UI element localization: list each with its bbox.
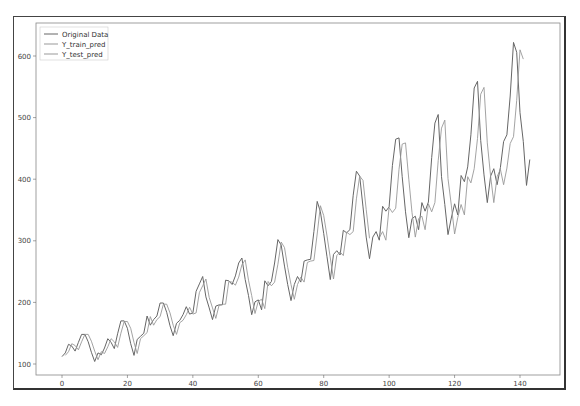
y-tick-label: 600	[18, 53, 31, 61]
x-tick-label: 120	[448, 380, 461, 388]
legend-label-test: Y_test_pred	[61, 51, 103, 59]
x-tick-label: 80	[319, 380, 328, 388]
y-tick-label: 500	[18, 114, 31, 122]
x-tick-label: 60	[254, 380, 263, 388]
x-tick-label: 20	[123, 380, 132, 388]
y-tick-label: 100	[18, 361, 31, 369]
legend: Original Data Y_train_pred Y_test_pred	[40, 27, 108, 60]
x-tick-label: 140	[513, 380, 526, 388]
x-tick-label: 0	[60, 380, 64, 388]
x-tick-label: 100	[382, 380, 395, 388]
plot-area	[36, 23, 560, 375]
x-tick-label: 40	[188, 380, 197, 388]
y-tick-label: 300	[18, 237, 31, 245]
legend-label-train: Y_train_pred	[61, 41, 106, 49]
y-tick-label: 400	[18, 176, 31, 184]
line-chart: 100200300400500600 020406080100120140 Or…	[0, 0, 580, 406]
y-tick-label: 200	[18, 299, 31, 307]
y-axis: 100200300400500600	[18, 53, 36, 369]
x-axis: 020406080100120140	[60, 375, 527, 388]
legend-label-original: Original Data	[62, 31, 108, 39]
